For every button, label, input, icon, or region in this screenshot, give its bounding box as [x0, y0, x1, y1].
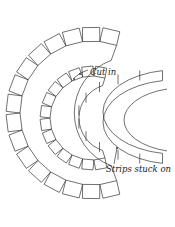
strip-outer-bottom: [103, 81, 162, 164]
band-tab: [82, 159, 94, 170]
band-tab: [62, 180, 82, 198]
cut-in-dot: [73, 78, 75, 80]
strip-inner-edge: [124, 89, 167, 151]
band-inner-edge: [79, 86, 102, 151]
band-end-cap: [111, 45, 116, 60]
band-tab: [94, 158, 107, 170]
inner-tabbed-band: [40, 66, 107, 170]
strips-dot: [116, 147, 118, 149]
strips-stuck-on-label: Strips stuck on: [106, 164, 171, 174]
cut-in-dot: [79, 73, 81, 75]
band-tab: [82, 184, 99, 198]
band-tab: [29, 160, 51, 182]
band-tab: [44, 34, 66, 54]
band-end-cap: [103, 78, 105, 86]
strips-leader: [114, 148, 117, 164]
band-tab: [6, 94, 22, 113]
band-tab: [40, 118, 51, 131]
cut-in-label: Cut in: [90, 67, 116, 77]
band-tab: [100, 181, 120, 199]
band-tab: [29, 44, 51, 66]
band-tab: [6, 113, 22, 132]
diagram: Cut in Strips stuck on: [0, 0, 175, 227]
band-tab: [44, 172, 66, 192]
band-end-cap: [103, 150, 105, 158]
curved-strip-3d: [79, 70, 167, 163]
band-tab: [100, 28, 120, 46]
band-tab: [62, 28, 82, 46]
strip-outer-top: [103, 71, 162, 154]
band-tab: [82, 27, 99, 41]
band-tab: [40, 105, 51, 118]
